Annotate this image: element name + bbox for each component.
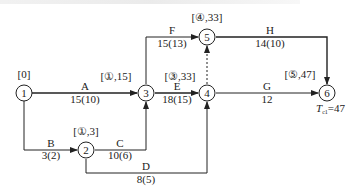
computed-duration-label: Tc1=47 — [316, 102, 346, 115]
activity-A-duration: 15(10) — [70, 93, 100, 106]
network-diagram: 1 2 3 4 5 6 [0] [①,3] [①,15] [③,33] [④,3… — [0, 0, 355, 193]
activity-F-name: F — [169, 24, 175, 36]
node-2: 2 — [78, 142, 94, 158]
activity-D-name: D — [142, 160, 150, 172]
node-6: 6 — [319, 85, 335, 101]
svg-text:4: 4 — [204, 87, 210, 99]
activity-G-duration: 12 — [262, 93, 273, 105]
node-5: 5 — [199, 29, 215, 45]
svg-text:3: 3 — [143, 87, 149, 99]
svg-text:6: 6 — [324, 87, 330, 99]
activity-C-duration: 10(6) — [108, 149, 132, 162]
activity-E-name: E — [174, 80, 181, 92]
node-5-tag: [④,33] — [191, 11, 222, 23]
svg-text:1: 1 — [21, 87, 27, 99]
activity-D-duration: 8(5) — [137, 173, 156, 186]
node-1-tag: [0] — [18, 68, 31, 80]
activity-H-name: H — [266, 24, 274, 36]
node-3: 3 — [138, 85, 154, 101]
node-2-tag: [①,3] — [73, 125, 99, 137]
node-6-tag: [⑤,47] — [284, 68, 315, 80]
activity-E-duration: 18(15) — [162, 93, 192, 106]
activity-H-duration: 14(10) — [255, 37, 285, 50]
activity-B-duration: 3(2) — [42, 149, 61, 162]
activity-G-name: G — [263, 80, 271, 92]
node-3-tag: [①,15] — [100, 70, 131, 82]
activity-B-name: B — [47, 137, 54, 149]
activity-A-name: A — [81, 80, 89, 92]
node-4: 4 — [199, 85, 215, 101]
svg-text:2: 2 — [83, 144, 89, 156]
svg-text:5: 5 — [204, 31, 210, 43]
node-1: 1 — [16, 85, 32, 101]
activity-C-name: C — [116, 137, 123, 149]
activity-F-duration: 15(13) — [157, 37, 187, 50]
